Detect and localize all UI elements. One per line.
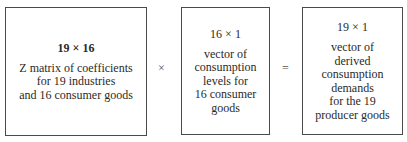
consumption-vector-description: vector of consumption levels for 16 cons… [195,48,257,116]
desc-line: consumption [315,68,389,82]
z-matrix-description: Z matrix of coefficients for 19 industri… [19,62,133,103]
desc-line: 16 consumer [195,88,257,102]
consumption-vector-box: 16 × 1 vector of consumption levels for … [181,7,270,135]
desc-line: levels for [195,75,257,89]
desc-line: Z matrix of coefficients [19,62,133,76]
desc-line: derived [315,55,389,69]
desc-line: vector of [195,48,257,62]
derived-demand-dimension: 19 × 1 [337,20,368,35]
desc-line: vector of [315,41,389,55]
derived-demand-vector-box: 19 × 1 vector of derived consumption dem… [302,7,403,135]
desc-line: consumption [195,61,257,75]
equals-operator: = [282,61,289,76]
desc-line: producer goods [315,109,389,123]
desc-line: for the 19 [315,95,389,109]
multiply-operator: × [158,61,165,76]
derived-demand-description: vector of derived consumption demands fo… [315,41,389,122]
desc-line: and 16 consumer goods [19,89,133,103]
z-matrix-dimension: 19 × 16 [58,41,95,56]
z-matrix-box: 19 × 16 Z matrix of coefficients for 19 … [5,7,147,136]
consumption-vector-dimension: 16 × 1 [210,27,241,42]
desc-line: demands [315,82,389,96]
desc-line: for 19 industries [19,75,133,89]
desc-line: goods [195,102,257,116]
